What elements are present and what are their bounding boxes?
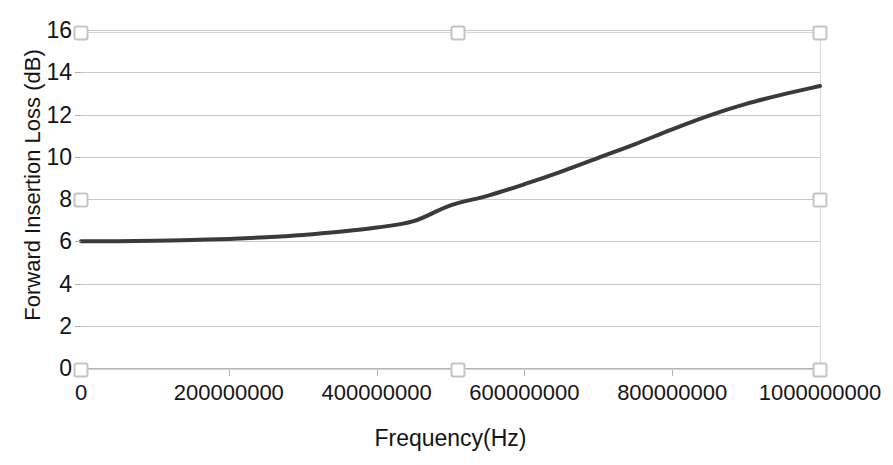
- handle-connector-bottom-left: [88, 369, 451, 370]
- handle-connector-top-right: [466, 32, 813, 33]
- x-tick-label: 400000000: [322, 382, 432, 404]
- y-tick-mark: [75, 157, 81, 158]
- y-axis-tick-labels: 0246810121416: [8, 0, 72, 465]
- handle-connector-top-left: [88, 32, 451, 33]
- y-tick-label: 4: [12, 272, 72, 295]
- resize-handle-bottom-right[interactable]: [813, 363, 828, 378]
- resize-handle-bottom-center[interactable]: [451, 363, 466, 378]
- resize-handle-middle-left[interactable]: [74, 193, 89, 208]
- resize-handle-top-right[interactable]: [813, 26, 828, 41]
- y-tick-mark: [75, 326, 81, 327]
- x-tick-label: 0: [75, 382, 87, 404]
- y-tick-mark: [75, 115, 81, 116]
- series-layer: [81, 30, 820, 368]
- plot-area: [81, 30, 820, 368]
- handle-connector-bottom-right: [466, 369, 813, 370]
- y-tick-mark: [75, 284, 81, 285]
- resize-handle-middle-right[interactable]: [813, 193, 828, 208]
- y-tick-label: 16: [12, 19, 72, 42]
- y-tick-label: 14: [12, 61, 72, 84]
- y-tick-mark: [75, 241, 81, 242]
- x-tick-label: 600000000: [469, 382, 579, 404]
- x-tick-mark: [377, 369, 378, 376]
- y-tick-label: 10: [12, 145, 72, 168]
- resize-handle-top-left[interactable]: [74, 26, 89, 41]
- y-tick-mark: [75, 72, 81, 73]
- y-tick-label: 2: [12, 314, 72, 337]
- resize-handle-top-center[interactable]: [451, 26, 466, 41]
- x-axis-title: Frequency(Hz): [81, 425, 820, 452]
- resize-handle-bottom-left[interactable]: [74, 363, 89, 378]
- x-tick-mark: [524, 369, 525, 376]
- x-tick-mark: [229, 369, 230, 376]
- x-tick-label: 800000000: [617, 382, 727, 404]
- series-line-forward-insertion-loss[interactable]: [81, 86, 820, 241]
- x-tick-mark: [672, 369, 673, 376]
- y-tick-label: 6: [12, 230, 72, 253]
- y-tick-label: 8: [12, 188, 72, 211]
- chart-object[interactable]: Forward Insertion Loss (dB) 024681012141…: [0, 0, 893, 465]
- x-tick-label: 1000000000: [759, 382, 881, 404]
- x-tick-label: 200000000: [174, 382, 284, 404]
- y-tick-label: 0: [12, 357, 72, 380]
- y-tick-label: 12: [12, 103, 72, 126]
- screenshot-canvas: Forward Insertion Loss (dB) 024681012141…: [0, 0, 893, 465]
